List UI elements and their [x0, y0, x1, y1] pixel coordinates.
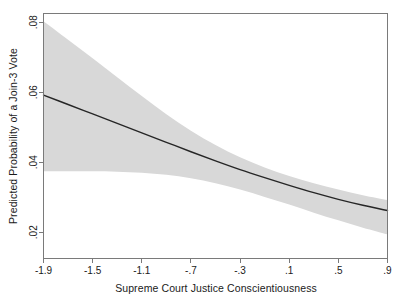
x-tick-label: -.7	[185, 265, 197, 276]
x-tick-label: .5	[334, 265, 343, 276]
chart-figure: -1.9-1.5-1.1-.7-.3.1.5.9 .02.04.06.08 Su…	[0, 0, 401, 301]
y-axis-label: Predicted Probability of a Join-3 Vote	[7, 48, 19, 224]
chart-svg: -1.9-1.5-1.1-.7-.3.1.5.9 .02.04.06.08 Su…	[0, 0, 401, 301]
x-axis-label: Supreme Court Justice Conscientiousness	[115, 282, 317, 294]
y-tick-label: .02	[28, 225, 39, 239]
x-tick-label: .9	[383, 265, 392, 276]
y-tick-label: .04	[28, 155, 39, 169]
x-tick-label: -.3	[234, 265, 246, 276]
x-tick-label: .1	[285, 265, 294, 276]
x-tick-label: -1.9	[35, 265, 53, 276]
x-tick-label: -1.1	[133, 265, 151, 276]
x-tick-label: -1.5	[84, 265, 102, 276]
y-tick-label: .08	[28, 15, 39, 29]
y-tick-label: .06	[28, 85, 39, 99]
